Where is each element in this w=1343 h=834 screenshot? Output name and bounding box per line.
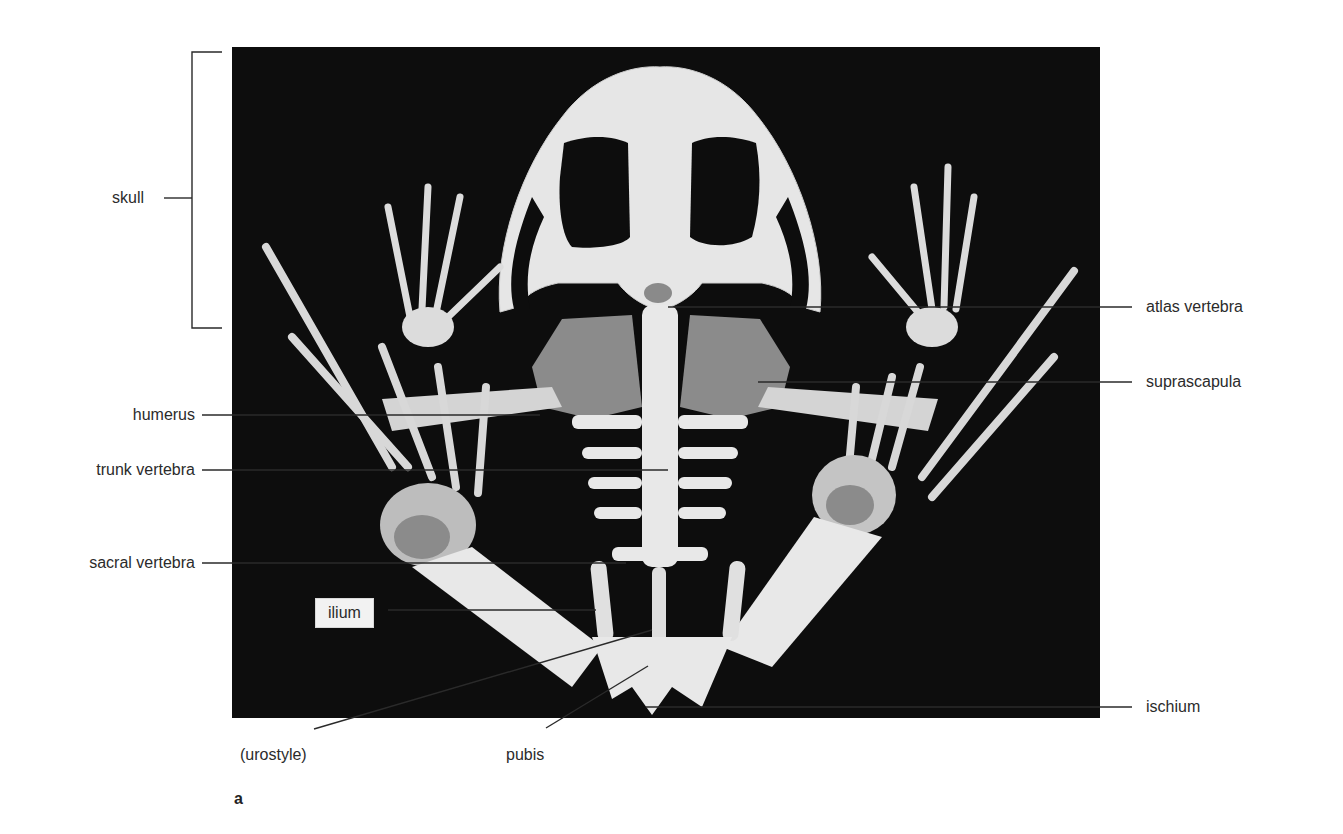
label-atlas-vertebra: atlas vertebra [1146, 298, 1243, 316]
panel-letter: a [234, 790, 243, 808]
label-ischium: ischium [1146, 698, 1200, 716]
label-skull: skull [112, 189, 144, 207]
skull-bracket [192, 52, 222, 328]
label-pubis: pubis [506, 746, 544, 764]
label-suprascapula: suprascapula [1146, 373, 1241, 391]
label-humerus: humerus [80, 406, 195, 424]
label-trunk-vertebra: trunk vertebra [30, 461, 195, 479]
label-sacral-vertebra: sacral vertebra [20, 554, 195, 572]
label-urostyle: (urostyle) [240, 746, 307, 764]
label-ilium: ilium [315, 598, 374, 628]
skull-shape [499, 67, 821, 312]
